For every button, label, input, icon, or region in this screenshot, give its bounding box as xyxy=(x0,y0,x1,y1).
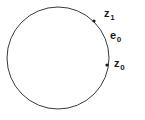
point-label-z1-subscript: 1 xyxy=(110,13,114,22)
point-marker-z0 xyxy=(105,63,108,66)
point-label-z0: z0 xyxy=(114,58,124,69)
annotation-label-e0-base: e xyxy=(110,29,116,41)
point-label-z1: z1 xyxy=(104,8,114,19)
point-label-z0-base: z xyxy=(114,57,120,69)
annotation-label-e0: e0 xyxy=(110,30,121,41)
point-label-z1-base: z xyxy=(104,7,110,19)
point-label-z0-subscript: 0 xyxy=(120,63,124,72)
point-marker-z1 xyxy=(92,19,95,22)
annotation-label-e0-subscript: 0 xyxy=(117,35,121,44)
figure-canvas: z1 e0 z0 xyxy=(0,0,145,120)
